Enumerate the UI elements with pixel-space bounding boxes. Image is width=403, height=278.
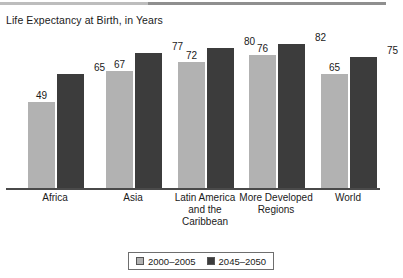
- bar-value-label: 72: [178, 50, 205, 61]
- legend-entry: 2000–2005: [136, 256, 196, 267]
- top-rule-dark-segment: [148, 2, 386, 5]
- bar-value-label: 49: [28, 90, 55, 101]
- bar: 77: [135, 53, 162, 187]
- legend-label: 2000–2005: [148, 256, 196, 267]
- category-label: World: [293, 192, 403, 204]
- x-axis-line: [6, 188, 380, 190]
- bar-value-label: 65: [321, 62, 348, 73]
- bar: 65: [321, 74, 348, 187]
- plot-area: 49656777728076826575: [6, 30, 380, 189]
- category-axis: AfricaAsiaLatin America and the Caribbea…: [6, 192, 380, 240]
- bar-value-label: 76: [249, 43, 276, 54]
- bar: 65: [57, 74, 84, 187]
- bar: 67: [106, 71, 133, 188]
- top-rule-light-segment: [0, 2, 148, 5]
- chart-title: Life Expectancy at Birth, in Years: [6, 14, 163, 26]
- legend-swatch: [136, 257, 144, 265]
- top-scan-rule: [0, 2, 386, 5]
- bar: 75: [350, 57, 377, 188]
- bar: 49: [28, 102, 55, 187]
- chart-legend: 2000–20052045–2050: [128, 252, 274, 270]
- bar: 72: [178, 62, 205, 188]
- bar: 82: [278, 44, 305, 187]
- bar-value-label: 67: [106, 59, 133, 70]
- legend-entry: 2045–2050: [207, 256, 267, 267]
- bar-value-label: 82: [307, 32, 334, 43]
- legend-label: 2045–2050: [219, 256, 267, 267]
- legend-swatch: [207, 257, 215, 265]
- bar: 76: [249, 55, 276, 188]
- bar: 80: [207, 48, 234, 188]
- bar-value-label: 75: [379, 45, 403, 56]
